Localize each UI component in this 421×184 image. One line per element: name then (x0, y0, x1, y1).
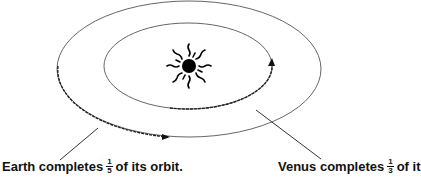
venus-label: Venus completes 1 3 of it (278, 158, 421, 175)
venus-leader-line (256, 110, 321, 159)
sun-icon (167, 44, 211, 88)
earth-leader-line (60, 128, 98, 160)
earth-arrow-icon (162, 134, 170, 140)
earth-label-suffix: of its orbit. (116, 159, 183, 174)
venus-fraction: 1 3 (387, 158, 393, 175)
earth-label: Earth completes 1 5 of its orbit. (2, 158, 183, 175)
venus-label-prefix: Venus completes (278, 159, 384, 174)
earth-label-prefix: Earth completes (2, 159, 103, 174)
earth-fraction: 1 5 (106, 158, 112, 175)
venus-arrow-icon (268, 58, 275, 66)
earth-path-arc (58, 66, 168, 137)
venus-label-suffix: of it (397, 159, 421, 174)
venus-fraction-denominator: 3 (387, 167, 393, 175)
earth-fraction-denominator: 5 (106, 167, 112, 175)
